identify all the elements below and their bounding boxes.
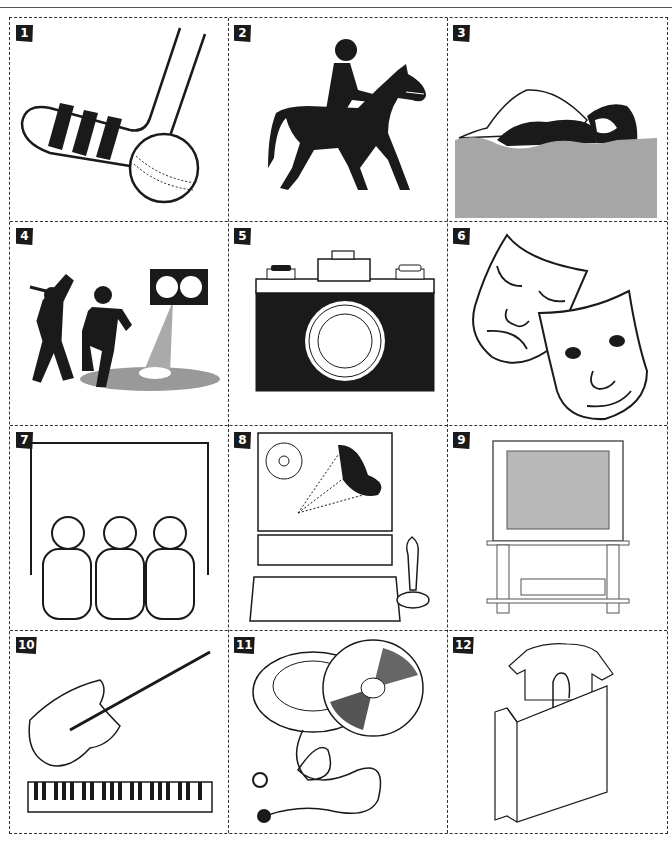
- cell-1: 1: [10, 18, 228, 221]
- number-badge: 8: [234, 432, 251, 449]
- television-icon: [447, 425, 669, 630]
- number-badge: 3: [453, 25, 470, 42]
- number-badge: 10: [16, 637, 37, 654]
- cell-11: 11: [228, 630, 447, 835]
- cell-6: 6: [447, 221, 669, 425]
- cell-8: 8: [228, 425, 447, 630]
- number-badge: 9: [453, 432, 470, 449]
- camera-icon: [228, 221, 447, 425]
- horse-rider-icon: [228, 18, 447, 221]
- top-rule: [0, 7, 672, 8]
- number-badge: 12: [453, 637, 474, 654]
- number-badge: 11: [234, 637, 255, 654]
- shopping-bag-icon: [447, 630, 669, 835]
- number-badge: 1: [16, 25, 33, 42]
- theatre-masks-icon: [447, 221, 669, 425]
- dancers-icon: [10, 221, 228, 425]
- number-badge: 4: [16, 228, 33, 245]
- computer-game-icon: [228, 425, 447, 630]
- number-badge: 6: [453, 228, 470, 245]
- cell-5: 5: [228, 221, 447, 425]
- cell-3: 3: [447, 18, 669, 221]
- swimmer-icon: [447, 18, 669, 221]
- cell-2: 2: [228, 18, 447, 221]
- guitar-keyboard-icon: [10, 630, 228, 835]
- cell-9: 9: [447, 425, 669, 630]
- cell-12: 12: [447, 630, 669, 835]
- cd-player-icon: [228, 630, 447, 835]
- number-badge: 7: [16, 432, 33, 449]
- number-badge: 2: [234, 25, 251, 42]
- cell-7: 7: [10, 425, 228, 630]
- picture-grid: 1 2 3 4: [9, 17, 668, 834]
- cinema-audience-icon: [10, 425, 228, 630]
- hockey-stick-icon: [10, 18, 228, 221]
- cell-10: 10: [10, 630, 228, 835]
- number-badge: 5: [234, 228, 251, 245]
- cell-4: 4: [10, 221, 228, 425]
